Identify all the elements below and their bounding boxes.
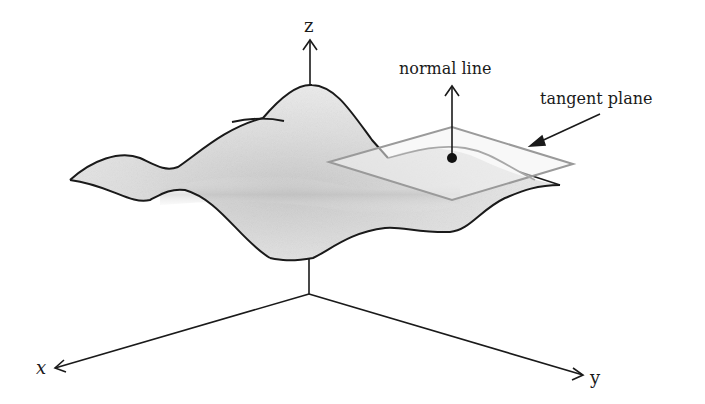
z-axis-label: z <box>304 15 313 36</box>
normal-line-label: normal line <box>399 59 492 78</box>
axes <box>55 259 583 380</box>
diagram-canvas: z normal line tangent plane x y <box>0 0 705 404</box>
y-axis-line <box>309 294 583 375</box>
z-axis-upper <box>303 40 317 85</box>
tangent-plane-label: tangent plane <box>540 89 652 108</box>
point-of-tangency <box>447 153 457 163</box>
x-axis-label: x <box>36 357 46 378</box>
tangent-plane-pointer <box>530 114 600 146</box>
x-axis-line <box>55 294 309 368</box>
tangent-plane-pointer-arrow-icon <box>530 136 545 146</box>
y-axis-label: y <box>589 367 601 388</box>
tangent-plane-pointer-line <box>537 114 600 143</box>
